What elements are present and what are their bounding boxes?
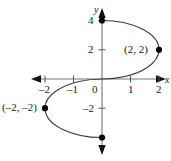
y-tick-label-2: 2	[88, 44, 94, 55]
x-tick-label-2: 2	[156, 84, 162, 95]
point-label-2-2: (2, 2)	[124, 44, 148, 55]
x-tick-label--2: –2	[39, 84, 50, 95]
origin-label: 0	[92, 84, 98, 95]
x-tick-label--1: –1	[67, 84, 78, 95]
y-tick-label-4: 4	[88, 15, 94, 26]
x-tick-label-1: 1	[128, 84, 134, 95]
y-axis-label: y	[94, 4, 98, 15]
point-0-neg4	[99, 134, 105, 140]
y-axis	[98, 8, 105, 155]
coordinate-plane-svg	[0, 0, 171, 161]
point-label-neg2-neg2: (–2, –2)	[2, 102, 37, 113]
point-0-4	[99, 17, 105, 23]
x-axis-label: x	[165, 74, 169, 85]
y-tick-label--2: –2	[83, 103, 94, 114]
x-axis-left-arrow-icon	[31, 75, 41, 83]
graph-figure: y x 0 –2 –1 1 2 4 2 –2 (2, 2) (–2, –2)	[0, 0, 171, 161]
y-axis-down-arrow-icon	[98, 145, 105, 155]
point-neg2-neg2	[42, 105, 48, 111]
y-axis-up-arrow-icon	[98, 8, 105, 18]
point-2-2	[156, 47, 162, 53]
